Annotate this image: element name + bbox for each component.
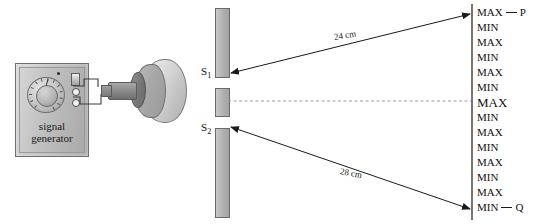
fringe-label: MIN — [477, 111, 498, 123]
fringe-label: MAX — [477, 66, 503, 78]
fringe-maximum: MAX — [477, 185, 537, 200]
fringe-label: MIN — [477, 141, 498, 153]
fringe-label: MIN — [477, 171, 498, 183]
fringe-maximum: MAX — [477, 125, 537, 140]
fringe-label: MIN — [477, 51, 498, 63]
fringe-minimum: MIN — [477, 140, 537, 155]
fringe-label: MIN — [477, 81, 498, 93]
fringe-maximum: MAX — [477, 155, 537, 170]
fringe-maximum: MAXP — [477, 5, 537, 20]
fringe-label: MAX — [477, 36, 503, 48]
ray-upper-24cm — [231, 14, 470, 73]
fringe-minimum: MINQ — [477, 200, 537, 215]
fringe-label: MAX — [477, 126, 503, 138]
fringe-label: MIN — [477, 201, 498, 213]
fringe-maximum: MAX — [477, 65, 537, 80]
endpoint-leader-line — [501, 207, 512, 208]
fringe-maximum: MAX — [477, 95, 537, 110]
endpoint-label-q: Q — [515, 201, 523, 213]
fringe-label: MAX — [477, 186, 503, 198]
physics-diagram: signal generator S1 S2 — [0, 0, 540, 224]
fringe-label: MIN — [477, 21, 498, 33]
fringe-minimum: MIN — [477, 110, 537, 125]
endpoint-label-p: P — [520, 6, 526, 18]
endpoint-leader-line — [506, 12, 517, 13]
fringe-minimum: MIN — [477, 50, 537, 65]
fringe-minimum: MIN — [477, 170, 537, 185]
fringe-maximum: MAX — [477, 35, 537, 50]
fringe-minimum: MIN — [477, 80, 537, 95]
fringe-label-column: MAXPMINMAXMINMAXMINMAXMINMAXMINMAXMINMAX… — [477, 5, 537, 215]
fringe-label: MAX — [477, 156, 503, 168]
fringe-label: MAX — [477, 6, 503, 18]
fringe-label: MAX — [477, 95, 507, 110]
fringe-minimum: MIN — [477, 20, 537, 35]
ray-geometry — [0, 0, 540, 224]
